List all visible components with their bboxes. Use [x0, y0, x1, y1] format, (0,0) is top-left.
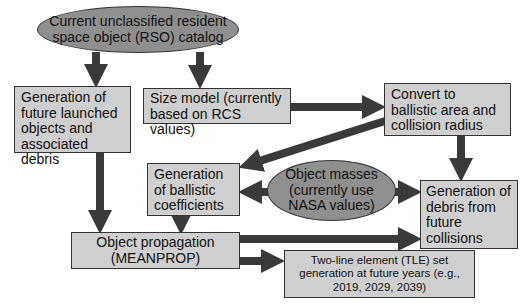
node-convert-ballistic-label: Convert to ballistic area and collision …	[391, 86, 496, 133]
arrow-convert-to-ballistic	[250, 121, 385, 164]
node-object-masses: Object masses (currently use NASA values…	[267, 160, 396, 221]
node-rso-catalog: Current unclassified resident space obje…	[37, 6, 239, 53]
node-propagation-label: Object propagation (MEANPROP)	[78, 235, 233, 266]
flowchart: Current unclassified resident space obje…	[0, 0, 522, 306]
node-ballistic-coeff-label: Generation of ballistic coefficients	[154, 166, 224, 213]
node-future-launch: Generation of future launched objects an…	[14, 86, 131, 153]
node-ballistic-coeff: Generation of ballistic coefficients	[147, 163, 240, 216]
node-tle-generation: Two-line element (TLE) set generation at…	[284, 250, 475, 298]
node-debris-collisions-label: Generation of debris from future collisi…	[426, 183, 511, 246]
node-propagation: Object propagation (MEANPROP)	[71, 232, 240, 269]
node-rso-catalog-label: Current unclassified resident space obje…	[46, 14, 230, 45]
node-object-masses-label: Object masses (currently use NASA values…	[280, 167, 383, 214]
node-size-model: Size model (currently based on RCS value…	[143, 88, 291, 124]
node-tle-generation-label: Two-line element (TLE) set generation at…	[295, 254, 464, 295]
node-debris-collisions: Generation of debris from future collisi…	[420, 180, 518, 249]
node-convert-ballistic: Convert to ballistic area and collision …	[384, 83, 511, 136]
